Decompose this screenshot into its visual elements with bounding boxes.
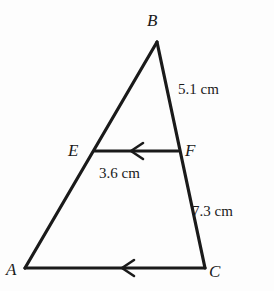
vertex-label-B: B [147,12,157,29]
vertex-label-A: A [6,261,16,278]
vertex-label-C: C [209,263,220,280]
measurement-label-ef: 3.6 cm [99,166,140,181]
vertex-label-E: E [68,142,78,159]
measurement-label-bf: 5.1 cm [178,82,219,97]
geometry-canvas [0,0,274,291]
segment-BC [157,42,205,268]
geometry-figure: B A C E F 5.1 cm 3.6 cm 7.3 cm [0,0,274,291]
measurement-label-fc: 7.3 cm [192,204,233,219]
vertex-label-F: F [185,142,195,159]
